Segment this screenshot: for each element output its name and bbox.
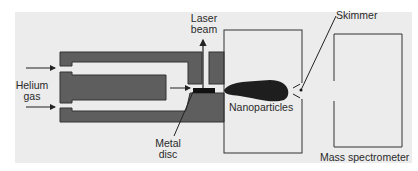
nanoparticle-plume xyxy=(224,80,288,101)
label-skimmer: Skimmer xyxy=(336,10,377,21)
label-nanoparticles: Nanoparticles xyxy=(229,102,293,113)
label-gas: gas xyxy=(8,91,56,102)
label-metal-disc: Metal disc xyxy=(150,138,186,160)
label-laser-beam: Laser beam xyxy=(186,13,222,35)
nozzle-upper-block xyxy=(209,52,224,84)
metal-disc xyxy=(193,88,215,93)
label-disc: disc xyxy=(150,149,186,160)
label-mass-spectrometer: Mass spectrometer xyxy=(320,152,409,163)
mass-spectrometer-box xyxy=(334,34,402,147)
label-beam: beam xyxy=(186,24,222,35)
inner-channel-block xyxy=(60,72,166,103)
label-helium-gas: Helium gas xyxy=(8,80,56,102)
skimmer-pointer xyxy=(301,16,336,90)
